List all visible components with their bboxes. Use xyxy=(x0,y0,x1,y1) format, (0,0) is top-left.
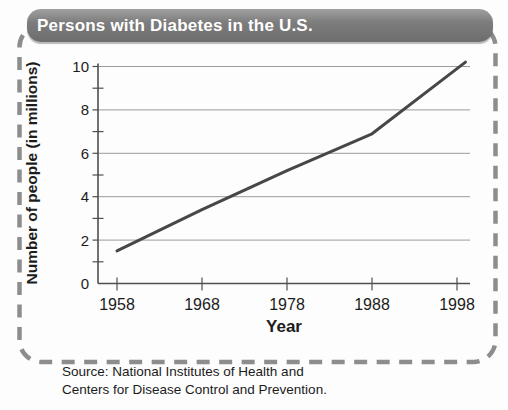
title-bar: Persons with Diabetes in the U.S. xyxy=(27,9,493,42)
chart-title: Persons with Diabetes in the U.S. xyxy=(27,16,313,36)
x-tick-label-1988: 1988 xyxy=(354,296,390,313)
y-tick-label-2: 2 xyxy=(81,232,89,249)
x-tick-label-1998: 1998 xyxy=(439,296,475,313)
y-tick-label-6: 6 xyxy=(81,145,89,162)
line-chart: 024681019581968197819881998 xyxy=(0,0,508,410)
y-tick-label-4: 4 xyxy=(81,188,89,205)
x-tick-label-1958: 1958 xyxy=(99,296,135,313)
y-tick-label-0: 0 xyxy=(81,275,89,292)
data-line xyxy=(117,62,466,251)
y-tick-label-8: 8 xyxy=(81,101,89,118)
figure-panel: 024681019581968197819881998 Persons with… xyxy=(0,0,508,410)
source-note: Source: National Institutes of Health an… xyxy=(62,363,327,399)
y-axis-title: Number of people (in millions) xyxy=(23,53,43,293)
source-line-1: Source: National Institutes of Health an… xyxy=(62,363,327,381)
source-line-2: Centers for Disease Control and Preventi… xyxy=(62,381,327,399)
y-tick-label-10: 10 xyxy=(72,58,89,75)
x-axis-title: Year xyxy=(98,317,470,337)
x-tick-label-1978: 1978 xyxy=(269,296,305,313)
x-tick-label-1968: 1968 xyxy=(184,296,220,313)
dashed-border xyxy=(20,25,496,362)
